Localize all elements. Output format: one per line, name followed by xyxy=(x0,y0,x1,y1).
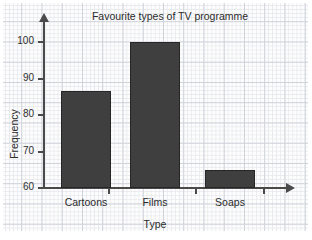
y-tick-100 xyxy=(38,41,45,43)
x-label-cartoons: Cartoons xyxy=(46,196,126,208)
y-axis-arrow-icon xyxy=(39,13,49,22)
bar-cartoons xyxy=(61,91,111,188)
x-label-films: Films xyxy=(115,196,195,208)
x-label-soaps: Soaps xyxy=(190,196,270,208)
x-tick-2 xyxy=(263,187,265,194)
bar-films xyxy=(130,42,180,188)
y-tick-80 xyxy=(38,114,45,116)
x-tick-1 xyxy=(195,187,197,194)
x-axis-title: Type xyxy=(120,218,190,230)
chart-title: Favourite types of TV programme xyxy=(70,10,270,22)
y-tick-60 xyxy=(38,187,45,189)
x-tick-0 xyxy=(108,187,110,194)
y-axis-line xyxy=(43,20,45,189)
y-axis-title: Frequency xyxy=(8,94,20,174)
y-tick-label-60: 60 xyxy=(8,182,34,192)
y-tick-70 xyxy=(38,151,45,153)
plot-area: Favourite types of TV programme 60708090… xyxy=(0,0,312,240)
bar-soaps xyxy=(205,170,255,188)
bar-chart: Favourite types of TV programme 60708090… xyxy=(0,0,312,240)
y-tick-label-90: 90 xyxy=(8,73,34,83)
y-tick-90 xyxy=(38,78,45,80)
x-axis-arrow-icon xyxy=(286,183,295,193)
y-tick-label-100: 100 xyxy=(8,36,34,46)
